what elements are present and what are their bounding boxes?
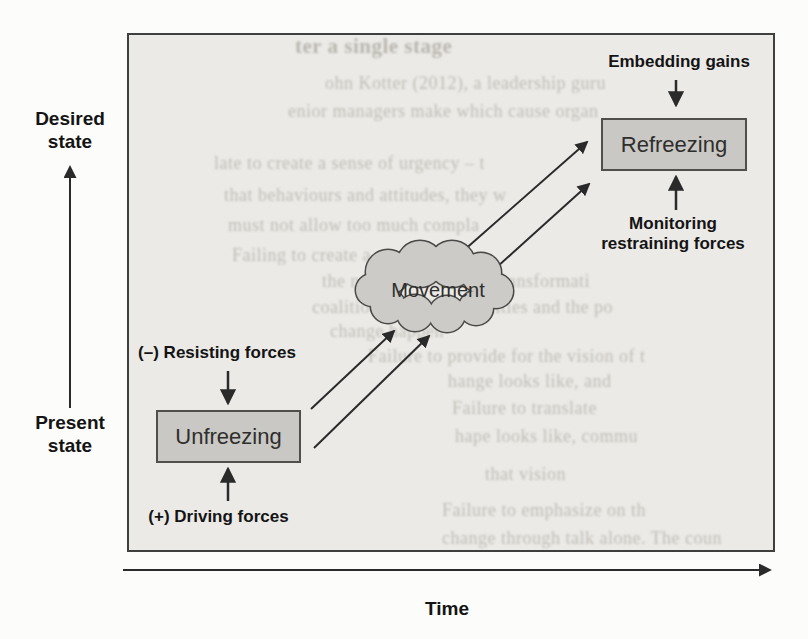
monitoring-forces-label: Monitoring restraining forces <box>584 214 762 254</box>
present-state-line2: state <box>14 434 126 457</box>
bleedthrough-line: Failing to create a powerful gu <box>232 245 469 266</box>
bleedthrough-line: Failure to emphasize on th <box>442 500 646 521</box>
bleedthrough-line: ohn Kotter (2012), a leadership guru <box>325 73 606 94</box>
time-axis-label: Time <box>347 597 547 620</box>
bleedthrough-line: must not allow too much compla <box>228 215 479 236</box>
desired-state-line1: Desired <box>14 107 126 130</box>
bleedthrough-line: Failure to translate <box>452 398 597 419</box>
movement-label: Movement <box>362 279 514 302</box>
bleedthrough-line: Failure to provide for the vision of t <box>368 346 645 367</box>
bleedthrough-line: ter a single stage <box>295 34 452 59</box>
bleedthrough-line: late to create a sense of urgency – t <box>214 153 485 174</box>
bleedthrough-line: that behaviours and attitudes, they w <box>224 185 506 206</box>
bleedthrough-line: that vision <box>485 464 566 485</box>
driving-forces-label: (+) Driving forces <box>126 507 311 527</box>
monitoring-line2: restraining forces <box>584 234 762 254</box>
bleedthrough-line: change through talk alone. The coun <box>442 528 722 549</box>
bleedthrough-line: enior managers make which cause organ <box>288 101 599 122</box>
monitoring-line1: Monitoring <box>584 214 762 234</box>
present-state-line1: Present <box>14 411 126 434</box>
refreezing-label: Refreezing <box>602 119 746 170</box>
embedding-gains-label: Embedding gains <box>590 52 768 72</box>
unfreezing-label: Unfreezing <box>157 411 300 462</box>
desired-state-label: Desired state <box>14 107 126 153</box>
desired-state-line2: state <box>14 130 126 153</box>
bleedthrough-line: hange looks like, and <box>448 371 611 392</box>
bleedthrough-line: change happen <box>330 321 444 342</box>
bleedthrough-line: hape looks like, commu <box>455 426 638 447</box>
lewin-change-model-figure: ter a single stage ohn Kotter (2012), a … <box>0 0 808 639</box>
resisting-forces-label: (–) Resisting forces <box>122 343 312 363</box>
present-state-label: Present state <box>14 411 126 457</box>
